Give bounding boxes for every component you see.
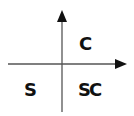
horizontal-axis	[8, 59, 127, 69]
right-arrowhead-icon	[115, 59, 127, 69]
up-arrowhead-icon	[57, 10, 67, 22]
axes	[0, 0, 134, 116]
quadrant-label-upper-right: C	[79, 35, 92, 53]
quadrant-label-lower-left: S	[24, 81, 37, 99]
quadrant-diagram: C S SC	[0, 0, 134, 116]
quadrant-label-lower-right: SC	[78, 81, 100, 99]
vertical-axis	[57, 10, 67, 112]
